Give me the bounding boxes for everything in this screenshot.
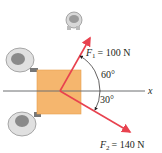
angle-arc-60: [80, 56, 100, 91]
force-diagram: F1= 100 N 60° 30° x F2= 140 N: [0, 0, 162, 153]
angle-60-label: 60°: [101, 69, 115, 80]
force-f1-label: F1= 100 N: [85, 47, 130, 60]
person-bottom-left-icon: [8, 112, 41, 136]
force-f2-label: F2= 140 N: [99, 139, 144, 152]
person-left-icon: [6, 48, 38, 72]
person-top-icon: [66, 12, 82, 30]
crate: [37, 70, 81, 114]
angle-30-label: 30°: [100, 94, 114, 105]
x-axis-label: x: [147, 85, 153, 96]
